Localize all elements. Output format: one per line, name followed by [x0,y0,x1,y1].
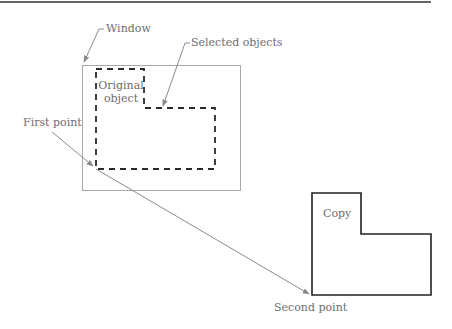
displacement-arrow [96,169,309,294]
copy-label: Copy [323,207,351,220]
first-point-leader-arrow [52,132,93,166]
diagram-svg [0,0,452,329]
original-object-label: Original object [98,79,144,105]
window-leader-arrow [84,29,104,62]
selected-objects-leader-arrow [163,43,190,106]
window-label: Window [106,22,151,35]
selected-objects-label: Selected objects [191,36,283,49]
first-point-label: First point [23,116,82,129]
original-object-label-line1: Original [98,79,144,92]
second-point-label: Second point [274,301,347,314]
copy-command-diagram: Window Selected objects First point Seco… [0,0,452,329]
original-object-label-line2: object [98,92,144,105]
